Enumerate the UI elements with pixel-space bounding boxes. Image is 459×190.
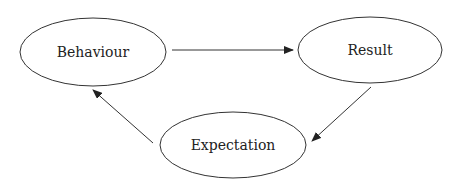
node-label-expectation: Expectation: [191, 137, 276, 153]
arrow-expectation-to-behaviour: [93, 90, 153, 143]
node-result: Result: [298, 17, 442, 83]
node-label-behaviour: Behaviour: [57, 44, 130, 60]
node-behaviour: Behaviour: [20, 18, 166, 86]
arrow-result-to-expectation: [312, 87, 371, 141]
node-expectation: Expectation: [160, 112, 306, 178]
diagram-svg: Behaviour Result Expectation: [0, 0, 459, 190]
cycle-diagram: Behaviour Result Expectation: [0, 0, 459, 190]
node-label-result: Result: [347, 42, 393, 58]
